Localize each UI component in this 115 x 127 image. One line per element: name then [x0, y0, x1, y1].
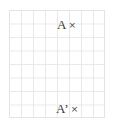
point-label-a: A × — [57, 18, 76, 31]
figure-canvas: A × A’ × — [0, 0, 115, 127]
point-label-a-prime: A’ × — [56, 102, 78, 115]
point-a-prime-label-text: A’ — [56, 102, 69, 115]
cross-point-marker: × — [69, 21, 77, 30]
cross-point-marker: × — [71, 105, 79, 114]
point-a-label-text: A — [57, 18, 67, 31]
